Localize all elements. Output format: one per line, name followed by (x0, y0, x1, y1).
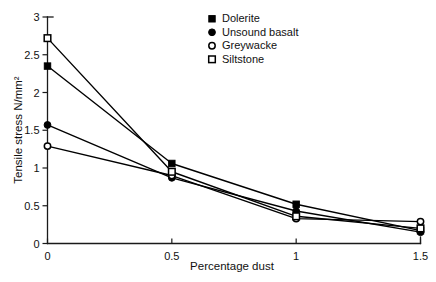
series-lines-group (48, 38, 421, 232)
marker-dolerite (293, 201, 299, 207)
x-axis-ticks: 00.511.5 (44, 239, 428, 262)
x-axis-title: Percentage dust (190, 260, 275, 272)
marker-dolerite (44, 63, 50, 69)
legend-label: Siltstone (222, 53, 264, 65)
legend-label: Dolerite (222, 12, 260, 24)
legend-marker-unsound-basalt (209, 29, 216, 36)
marker-siltstone (293, 213, 300, 220)
y-tick-label: 0 (33, 238, 39, 250)
legend-marker-siltstone (209, 56, 216, 63)
series-line-siltstone (48, 38, 421, 228)
marker-dolerite (169, 160, 175, 166)
legend-marker-dolerite (209, 16, 215, 22)
y-tick-label: 2 (33, 87, 39, 99)
y-tick-label: 1 (33, 162, 39, 174)
legend: DoleriteUnsound basaltGreywackeSiltstone (209, 12, 299, 65)
y-tick-label: 2.5 (24, 49, 39, 61)
series-line-unsound-basalt (48, 125, 421, 232)
marker-unsound-basalt (44, 122, 51, 129)
line-chart: 00.511.522.53 00.511.5 Percentage dust T… (0, 0, 436, 282)
series-markers-group (44, 35, 424, 236)
y-tick-label: 0.5 (24, 200, 39, 212)
marker-greywacke (417, 218, 423, 224)
y-axis-ticks: 00.511.522.53 (24, 11, 47, 250)
y-axis-title: Tensile stress N/mm² (12, 76, 24, 184)
legend-marker-greywacke (209, 43, 215, 49)
y-tick-label: 1.5 (24, 124, 39, 136)
legend-label: Unsound basalt (222, 26, 298, 38)
marker-greywacke (44, 143, 50, 149)
marker-siltstone (44, 35, 51, 42)
x-tick-label: 1.5 (413, 250, 428, 262)
marker-siltstone (417, 225, 424, 232)
chart-figure: 00.511.522.53 00.511.5 Percentage dust T… (0, 0, 436, 282)
x-tick-label: 1 (293, 250, 299, 262)
y-tick-label: 3 (33, 11, 39, 23)
x-tick-label: 0.5 (164, 250, 179, 262)
x-tick-label: 0 (44, 250, 50, 262)
legend-label: Greywacke (222, 39, 277, 51)
marker-siltstone (169, 168, 176, 175)
